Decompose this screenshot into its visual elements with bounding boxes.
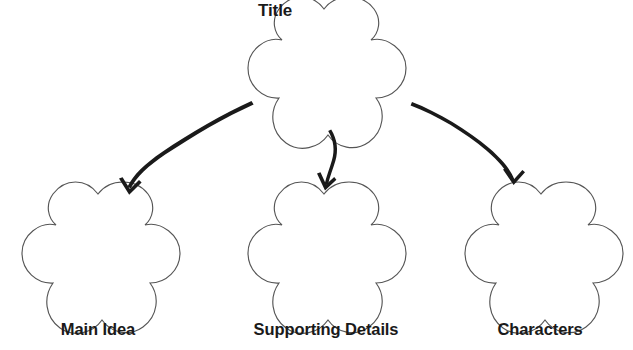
node-shape-supporting-details	[248, 182, 406, 333]
arrow-title-to-main-idea	[119, 101, 254, 195]
organizer-canvas	[0, 0, 633, 350]
node-shape-title-outline	[248, 0, 406, 148]
node-label-characters: Characters	[497, 321, 582, 338]
node-label-title: Title	[258, 2, 292, 19]
node-label-supporting-details: Supporting Details	[254, 321, 399, 338]
node-shape-main-idea	[22, 182, 180, 333]
graphic-organizer: Title Main Idea Supporting Details Chara…	[0, 0, 633, 350]
node-shape-characters	[465, 182, 623, 333]
arrow-title-to-characters	[411, 102, 525, 185]
node-label-main-idea: Main Idea	[61, 321, 135, 338]
